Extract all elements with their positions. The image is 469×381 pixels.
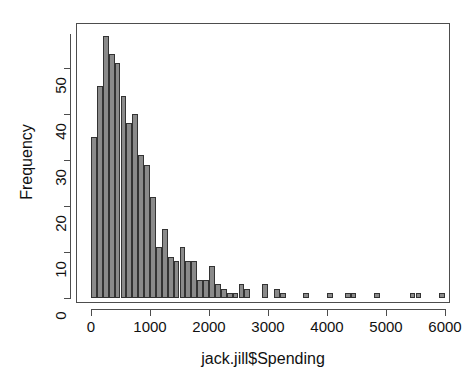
x-axis-tick [91, 309, 92, 316]
x-axis-title: jack.jill$Spending [76, 350, 450, 368]
x-axis-tick [268, 309, 269, 316]
y-axis-tick-label: 50 [52, 69, 69, 103]
x-axis-tick-label: 6000 [415, 318, 469, 336]
histogram-bar [262, 284, 268, 298]
x-axis-tick [209, 309, 210, 316]
x-axis-tick [386, 309, 387, 316]
x-axis-tick [150, 309, 151, 316]
y-axis-tick-label: 20 [52, 207, 69, 241]
y-axis-tick-label: 40 [52, 115, 69, 149]
x-axis-tick-label: 2000 [179, 318, 239, 336]
x-axis-tick-label: 4000 [297, 318, 357, 336]
histogram-bar [303, 293, 309, 298]
plot-area [76, 23, 450, 303]
histogram-bar [439, 293, 445, 298]
y-axis-tick-label: 30 [52, 161, 69, 195]
histogram-figure: Frequency 01020304050 010002000300040005… [0, 0, 469, 381]
x-axis-tick-label: 0 [61, 318, 121, 336]
histogram-bar [351, 293, 357, 298]
histogram-bar [374, 293, 380, 298]
histogram-bar [327, 293, 333, 298]
x-axis-tick-label: 1000 [120, 318, 180, 336]
x-axis-tick [327, 309, 328, 316]
y-axis-line [70, 34, 71, 298]
y-axis-tick-label: 10 [52, 253, 69, 287]
histogram-bar [280, 293, 286, 298]
x-axis-tick-label: 3000 [238, 318, 298, 336]
histogram-bar [416, 293, 422, 298]
histogram-bar [244, 289, 250, 298]
x-axis-tick [445, 309, 446, 316]
x-axis-tick-label: 5000 [356, 318, 416, 336]
